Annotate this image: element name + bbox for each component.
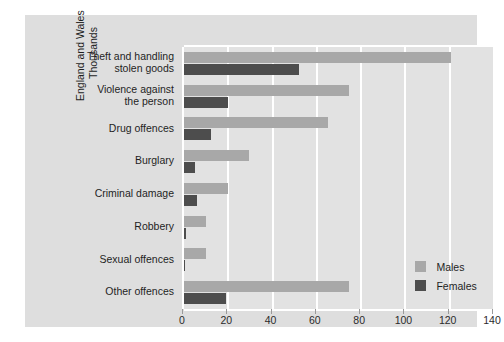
bar-males-0 (184, 52, 451, 63)
category-label-7: Other offences (34, 285, 174, 298)
chart-card: England and Wales Thousands Theft and ha… (25, 15, 477, 327)
bar-males-2 (184, 117, 328, 128)
category-label-5: Robbery (34, 220, 174, 233)
category-label-4: Criminal damage (34, 187, 174, 200)
x-tick-label-40: 40 (265, 314, 277, 326)
bar-males-6 (184, 248, 206, 259)
x-tick-label-120: 120 (439, 314, 457, 326)
plot-top-rule (184, 45, 494, 47)
legend-item-females: Females (415, 276, 477, 291)
bar-females-4 (184, 195, 197, 206)
bar-males-4 (184, 183, 228, 194)
bar-females-3 (184, 162, 195, 173)
legend-swatch-females-icon (415, 280, 426, 291)
bar-males-1 (184, 85, 349, 96)
chart-figure: England and Wales Thousands Theft and ha… (0, 0, 504, 342)
category-label-3: Burglary (34, 154, 174, 167)
chart-legend: Males Females (415, 257, 477, 295)
gridline-100 (404, 47, 406, 309)
category-label-1: Violence against the person (34, 83, 174, 108)
x-tick-label-0: 0 (179, 314, 185, 326)
legend-label-females: Females (436, 280, 476, 292)
category-label-0: Theft and handling stolen goods (34, 50, 174, 75)
bar-males-7 (184, 281, 349, 292)
bar-females-6 (184, 260, 185, 271)
gridline-80 (360, 47, 362, 309)
category-label-2: Drug offences (34, 122, 174, 135)
bar-females-1 (184, 97, 228, 108)
x-tick-label-20: 20 (220, 314, 232, 326)
legend-swatch-males-icon (415, 261, 426, 272)
category-label-6: Sexual offences (34, 253, 174, 266)
legend-item-males: Males (415, 257, 477, 272)
x-tick-label-60: 60 (309, 314, 321, 326)
x-tick-label-100: 100 (395, 314, 413, 326)
bar-males-3 (184, 150, 249, 161)
bar-females-7 (184, 293, 226, 304)
bar-males-5 (184, 216, 206, 227)
x-tick-label-80: 80 (353, 314, 365, 326)
x-tick-label-140: 140 (483, 314, 501, 326)
bar-females-0 (184, 64, 299, 75)
legend-label-males: Males (436, 261, 464, 273)
bar-females-5 (184, 228, 186, 239)
bar-females-2 (184, 129, 211, 140)
gridline-140 (493, 47, 495, 309)
